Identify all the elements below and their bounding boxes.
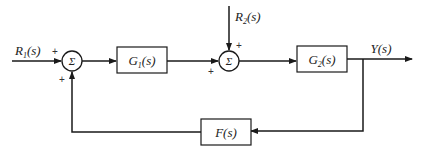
input-r2-label: R2(s) <box>234 9 261 26</box>
svg-text:G1(s): G1(s) <box>128 53 155 70</box>
sigma-icon: Σ <box>68 55 76 67</box>
summing-junction-1: Σ <box>62 51 82 71</box>
input-r1-label: R1(s) <box>14 43 41 60</box>
sum1-plus-bottom: + <box>59 74 65 85</box>
svg-text:G2(s): G2(s) <box>308 52 335 69</box>
summing-junction-2: Σ <box>219 51 239 71</box>
output-y-label: Y(s) <box>371 41 392 56</box>
sum2-plus-top: + <box>236 40 242 51</box>
sum1-plus-top: + <box>52 46 58 57</box>
block-f: F(s) <box>201 119 251 145</box>
block-g1: G1(s) <box>117 47 167 73</box>
sigma-icon: Σ <box>225 55 233 67</box>
block-diagram: R1(s) Σ + + G1(s) R2(s) Σ + + G2(s) Y(s)… <box>0 0 421 154</box>
svg-text:F(s): F(s) <box>214 125 237 140</box>
block-g2: G2(s) <box>297 46 347 72</box>
sum2-plus-left: + <box>208 66 214 77</box>
f-to-sum1-signal <box>72 72 201 132</box>
